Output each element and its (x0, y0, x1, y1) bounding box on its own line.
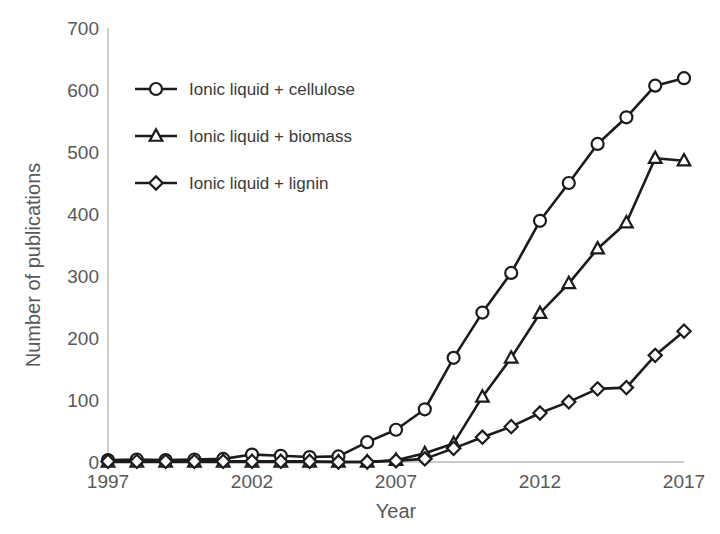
data-point-circle (150, 83, 162, 95)
x-tick-label: 2017 (663, 471, 705, 492)
data-point-circle (419, 403, 431, 415)
legend-label: Ionic liquid + biomass (189, 127, 352, 146)
chart-figure: 0100200300400500600700 19972002200720122… (0, 0, 720, 534)
x-tick-label: 2007 (375, 471, 417, 492)
y-tick-label: 700 (67, 18, 99, 39)
y-tick-label: 100 (67, 390, 99, 411)
data-point-circle (361, 436, 373, 448)
data-point-circle (592, 138, 604, 150)
data-point-circle (620, 111, 632, 123)
y-tick-label: 400 (67, 204, 99, 225)
legend-label: Ionic liquid + cellulose (189, 80, 355, 99)
data-point-circle (534, 215, 546, 227)
legend-label: Ionic liquid + lignin (189, 174, 328, 193)
data-point-circle (505, 267, 517, 279)
data-point-circle (390, 424, 402, 436)
data-point-circle (649, 80, 661, 92)
line-chart-svg: 0100200300400500600700 19972002200720122… (0, 0, 720, 534)
y-tick-label: 0 (88, 452, 99, 473)
data-point-circle (678, 72, 690, 84)
y-tick-label: 200 (67, 328, 99, 349)
y-tick-label: 500 (67, 142, 99, 163)
data-point-circle (476, 307, 488, 319)
data-point-circle (448, 352, 460, 364)
y-tick-label: 300 (67, 266, 99, 287)
data-point-circle (563, 177, 575, 189)
y-axis-title: Number of publications (22, 163, 44, 368)
x-tick-label: 2012 (519, 471, 561, 492)
x-tick-label: 2002 (231, 471, 273, 492)
y-tick-label: 600 (67, 80, 99, 101)
x-tick-label: 1997 (87, 471, 129, 492)
x-axis-title: Year (376, 500, 417, 522)
